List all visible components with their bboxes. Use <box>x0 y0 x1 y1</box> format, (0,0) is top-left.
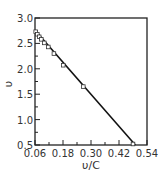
axis-ticks <box>35 18 147 145</box>
x-tick-label: 0.54 <box>136 148 158 159</box>
x-tick-label: 0.42 <box>108 148 130 159</box>
plot-frame <box>35 18 147 145</box>
x-tick-label: 0.30 <box>80 148 102 159</box>
y-tick-label: 1.0 <box>17 115 33 126</box>
data-point-marker <box>82 85 86 89</box>
data-series <box>34 30 135 146</box>
chart: 0.060.180.300.420.54 0.51.01.52.02.53.0 … <box>0 0 162 178</box>
data-point-marker <box>40 38 44 42</box>
x-axis-label: υ/C <box>82 159 100 172</box>
x-tick-label: 0.18 <box>52 148 74 159</box>
data-point-marker <box>61 63 65 67</box>
data-point-marker <box>131 142 135 146</box>
y-tick-label: 2.0 <box>17 64 33 75</box>
y-tick-label: 0.5 <box>17 140 33 151</box>
y-tick-label: 3.0 <box>17 13 33 24</box>
data-point-marker <box>43 41 47 45</box>
x-tick-labels: 0.060.180.300.420.54 <box>24 148 158 159</box>
y-tick-label: 1.5 <box>17 89 33 100</box>
y-tick-label: 2.5 <box>17 38 33 49</box>
plot-border <box>35 18 147 145</box>
y-axis-label: υ <box>2 81 15 87</box>
data-point-marker <box>47 45 51 49</box>
y-tick-labels: 0.51.01.52.02.53.0 <box>17 13 33 151</box>
data-point-marker <box>52 52 56 56</box>
